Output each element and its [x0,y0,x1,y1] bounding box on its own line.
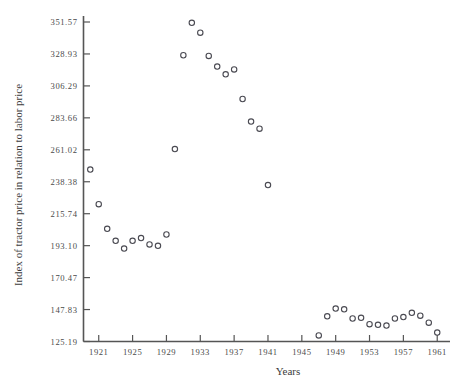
x-tick-label: 1933 [191,347,210,357]
y-tick-label: 147.83 [51,305,78,315]
data-point [240,96,245,101]
y-tick-label: 261.02 [51,145,78,155]
data-point [147,242,152,247]
y-axis-title: Index of tractor price in relation to la… [12,84,24,286]
y-tick-label: 351.57 [51,17,78,27]
data-point [164,232,169,237]
x-tick-label: 1925 [123,347,142,357]
x-tick-label: 1957 [394,347,414,357]
data-point [350,316,355,321]
data-point [316,333,321,338]
data-point [325,314,330,319]
x-tick-label: 1937 [224,347,244,357]
y-axis-tick-labels: 125.19147.83170.47193.10215.74238.38261.… [51,17,78,347]
x-axis-group: 1921192519291933193719411945194919531957… [84,335,451,357]
data-point [409,310,414,315]
x-tick-label: 1945 [292,347,311,357]
data-point [104,226,109,231]
y-tick-label: 170.47 [51,273,78,283]
data-point [231,67,236,72]
data-point [206,53,211,58]
y-tick-label: 215.74 [51,209,78,219]
x-axis-title: Years [276,365,301,377]
data-point [198,30,203,35]
x-tick-label: 1941 [258,347,277,357]
x-axis-tick-labels: 1921192519291933193719411945194919531957… [89,347,447,357]
data-point [435,330,440,335]
data-point-markers [88,20,440,338]
data-point [88,167,93,172]
data-point [358,315,363,320]
y-axis-ticks [84,22,91,342]
data-point [223,72,228,77]
data-point [172,146,177,151]
data-point [138,235,143,240]
x-tick-label: 1929 [157,347,176,357]
data-point [367,321,372,326]
x-tick-label: 1961 [428,347,447,357]
x-axis-ticks [99,335,437,342]
data-point [189,20,194,25]
data-point [96,201,101,206]
data-point [418,313,423,318]
y-tick-label: 328.93 [51,49,78,59]
y-tick-label: 306.29 [51,81,78,91]
data-point [130,238,135,243]
data-point [257,126,262,131]
data-point [121,246,126,251]
scatter-chart: 125.19147.83170.47193.10215.74238.38261.… [0,0,475,387]
data-point [181,53,186,58]
data-point [392,316,397,321]
data-point [426,320,431,325]
x-tick-label: 1949 [326,347,345,357]
x-tick-label: 1921 [89,347,108,357]
data-point [215,64,220,69]
data-point [375,322,380,327]
y-tick-label: 193.10 [51,241,78,251]
x-tick-label: 1953 [360,347,379,357]
data-point [265,182,270,187]
data-point [384,323,389,328]
data-point [113,238,118,243]
data-point [341,307,346,312]
data-point [333,306,338,311]
y-axis-group: 125.19147.83170.47193.10215.74238.38261.… [51,16,90,347]
y-tick-label: 283.66 [51,113,78,123]
data-point [155,243,160,248]
data-point [401,314,406,319]
y-tick-label: 238.38 [51,177,78,187]
data-point [248,119,253,124]
plot-area: 125.19147.83170.47193.10215.74238.38261.… [0,0,475,387]
y-tick-label: 125.19 [51,337,78,347]
